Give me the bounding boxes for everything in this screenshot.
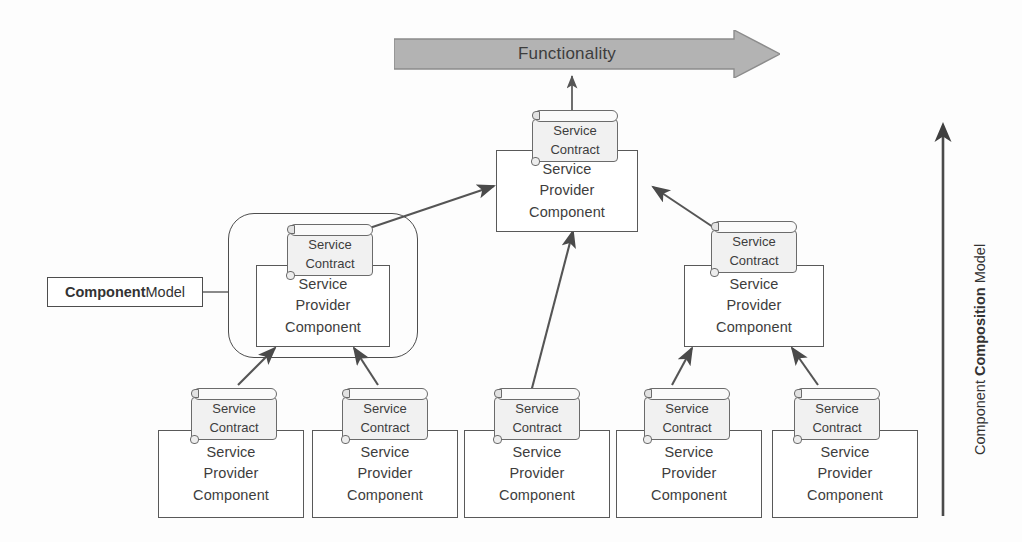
functionality-banner-label: Functionality bbox=[394, 30, 740, 78]
component-line-1: Service bbox=[206, 442, 255, 463]
contract-roll bbox=[344, 388, 428, 400]
contract-bottom-4[interactable]: Service Contract bbox=[644, 388, 730, 440]
contract-body: Service Contract bbox=[644, 397, 730, 440]
contract-body: Service Contract bbox=[532, 119, 618, 162]
contract-top-nub-icon bbox=[644, 389, 652, 398]
connector-bottom5-to-midright bbox=[792, 348, 818, 385]
contract-body: Service Contract bbox=[794, 397, 880, 440]
component-model-label-bold: Component bbox=[65, 284, 146, 300]
contract-line-1: Service bbox=[815, 400, 858, 418]
functionality-banner: Functionality bbox=[394, 30, 780, 78]
component-line-2: Provider bbox=[662, 463, 717, 484]
contract-roll bbox=[289, 224, 373, 236]
contract-top-nub-icon bbox=[794, 389, 802, 398]
component-line-2: Provider bbox=[818, 463, 873, 484]
component-line-1: Service bbox=[664, 442, 713, 463]
contract-line-1: Service bbox=[553, 122, 596, 140]
composition-label-pre: Component bbox=[972, 376, 988, 455]
contract-body: Service Contract bbox=[191, 397, 277, 440]
diagram-canvas: Functionality Component Model Service Pr… bbox=[0, 0, 1022, 542]
contract-line-1: Service bbox=[732, 233, 775, 251]
component-line-3: Component bbox=[347, 485, 423, 506]
component-line-2: Provider bbox=[204, 463, 259, 484]
contract-bottom-nub-icon bbox=[493, 435, 502, 444]
contract-bottom-nub-icon bbox=[190, 435, 199, 444]
component-line-3: Component bbox=[716, 317, 792, 338]
component-top-center[interactable]: Service Provider Component bbox=[496, 150, 638, 232]
component-line-3: Component bbox=[529, 202, 605, 223]
contract-line-2: Contract bbox=[550, 141, 599, 159]
contract-line-2: Contract bbox=[360, 419, 409, 437]
component-model-label: Component Model bbox=[47, 277, 203, 307]
component-line-3: Component bbox=[285, 317, 361, 338]
contract-line-2: Contract bbox=[729, 252, 778, 270]
component-line-3: Component bbox=[193, 485, 269, 506]
contract-roll bbox=[646, 388, 730, 400]
component-mid-right[interactable]: Service Provider Component bbox=[684, 265, 824, 347]
contract-roll bbox=[713, 221, 797, 233]
contract-top-nub-icon bbox=[191, 389, 199, 398]
component-bottom-4[interactable]: Service Provider Component bbox=[616, 430, 762, 518]
component-model-label-rest: Model bbox=[146, 284, 186, 300]
contract-line-1: Service bbox=[665, 400, 708, 418]
contract-bottom-3[interactable]: Service Contract bbox=[494, 388, 580, 440]
contract-line-2: Contract bbox=[209, 419, 258, 437]
composition-label-bold: Composition bbox=[972, 287, 988, 376]
contract-body: Service Contract bbox=[494, 397, 580, 440]
contract-body: Service Contract bbox=[711, 230, 797, 273]
contract-top-nub-icon bbox=[711, 222, 719, 231]
component-composition-model-label: Component Composition Model bbox=[972, 244, 988, 455]
contract-bottom-nub-icon bbox=[341, 435, 350, 444]
contract-bottom-5[interactable]: Service Contract bbox=[794, 388, 880, 440]
component-line-2: Provider bbox=[540, 180, 595, 201]
contract-line-2: Contract bbox=[305, 255, 354, 273]
contract-line-1: Service bbox=[515, 400, 558, 418]
contract-roll bbox=[796, 388, 880, 400]
component-bottom-3[interactable]: Service Provider Component bbox=[464, 430, 610, 518]
contract-body: Service Contract bbox=[287, 233, 373, 276]
connector-bottom4-to-midright bbox=[672, 348, 692, 385]
contract-top-nub-icon bbox=[342, 389, 350, 398]
component-line-1: Service bbox=[298, 274, 347, 295]
contract-line-1: Service bbox=[308, 236, 351, 254]
component-line-1: Service bbox=[542, 159, 591, 180]
contract-line-1: Service bbox=[363, 400, 406, 418]
contract-bottom-nub-icon bbox=[531, 157, 540, 166]
contract-roll bbox=[534, 110, 618, 122]
contract-mid-left[interactable]: Service Contract bbox=[287, 224, 373, 276]
contract-body: Service Contract bbox=[342, 397, 428, 440]
component-line-2: Provider bbox=[727, 295, 782, 316]
component-line-1: Service bbox=[512, 442, 561, 463]
contract-line-2: Contract bbox=[512, 419, 561, 437]
contract-top-nub-icon bbox=[287, 225, 295, 234]
component-line-1: Service bbox=[360, 442, 409, 463]
component-mid-left[interactable]: Service Provider Component bbox=[256, 265, 390, 347]
component-bottom-2[interactable]: Service Provider Component bbox=[312, 430, 458, 518]
contract-top-center[interactable]: Service Contract bbox=[532, 110, 618, 162]
component-line-3: Component bbox=[499, 485, 575, 506]
composition-label-post: Model bbox=[972, 244, 988, 288]
contract-bottom-nub-icon bbox=[793, 435, 802, 444]
contract-top-nub-icon bbox=[532, 111, 540, 120]
contract-bottom-nub-icon bbox=[643, 435, 652, 444]
contract-line-1: Service bbox=[212, 400, 255, 418]
component-line-2: Provider bbox=[510, 463, 565, 484]
connector-bottom3-to-top bbox=[531, 231, 573, 392]
contract-mid-right[interactable]: Service Contract bbox=[711, 221, 797, 273]
component-bottom-1[interactable]: Service Provider Component bbox=[158, 430, 304, 518]
component-line-3: Component bbox=[651, 485, 727, 506]
contract-line-2: Contract bbox=[662, 419, 711, 437]
contract-roll bbox=[496, 388, 580, 400]
contract-line-2: Contract bbox=[812, 419, 861, 437]
component-line-3: Component bbox=[807, 485, 883, 506]
component-line-1: Service bbox=[729, 274, 778, 295]
contract-bottom-1[interactable]: Service Contract bbox=[191, 388, 277, 440]
component-line-1: Service bbox=[820, 442, 869, 463]
contract-bottom-nub-icon bbox=[710, 268, 719, 277]
component-line-2: Provider bbox=[296, 295, 351, 316]
contract-bottom-2[interactable]: Service Contract bbox=[342, 388, 428, 440]
contract-top-nub-icon bbox=[494, 389, 502, 398]
contract-bottom-nub-icon bbox=[286, 271, 295, 280]
contract-roll bbox=[193, 388, 277, 400]
component-line-2: Provider bbox=[358, 463, 413, 484]
